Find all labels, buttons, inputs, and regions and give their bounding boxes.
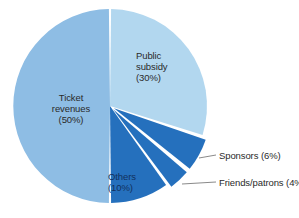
callout-label-friends-patrons-line1: Friends/patrons (219, 177, 284, 188)
slice-label-others-percent: (10%) (108, 182, 160, 193)
slice-label-ticket-revenues-line1: Ticket (59, 92, 83, 103)
callout-label-sponsors-percent: (6%) (261, 150, 281, 161)
leader-line-friends-patrons (182, 182, 216, 184)
slice-label-ticket-revenues-line2: revenues (52, 103, 90, 114)
slice-label-ticket-revenues-percent: (50%) (34, 114, 108, 125)
slice-label-public-subsidy-line2: subsidy (136, 61, 168, 72)
slice-label-public-subsidy-line1: Public (136, 50, 161, 61)
slice-label-others: Others (10%) (108, 171, 160, 193)
slice-label-public-subsidy: Public subsidy (30%) (136, 50, 198, 83)
callout-label-friends-patrons-percent: (4%) (286, 177, 299, 188)
leader-line-sponsors (199, 155, 216, 158)
pie-chart: Ticket revenues (50%) Public subsidy (30… (0, 0, 299, 218)
callout-label-sponsors-line1: Sponsors (219, 150, 258, 161)
callout-label-sponsors: Sponsors (6%) (219, 150, 281, 162)
callout-label-friends-patrons: Friends/patrons (4%) (219, 177, 299, 189)
slice-label-ticket-revenues: Ticket revenues (50%) (34, 92, 108, 125)
slice-label-public-subsidy-percent: (30%) (136, 72, 198, 83)
slice-label-others-line1: Others (108, 171, 136, 182)
